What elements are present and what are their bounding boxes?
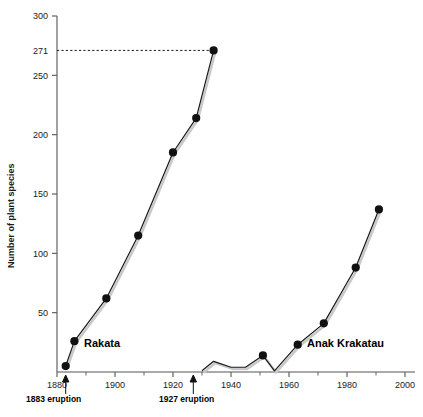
series-label-rakata: Rakata (84, 337, 121, 349)
x-tick-label-1920: 1920 (163, 380, 183, 390)
eruption-1927 (190, 375, 196, 394)
y-axis-ticks (52, 16, 57, 313)
x-tick-label-1940: 1940 (221, 380, 241, 390)
series-lines (66, 50, 379, 370)
series-markers (62, 46, 383, 370)
y-axis-title: Number of plant species (6, 163, 16, 268)
series-line-rakata (66, 50, 214, 366)
x-axis-tick-labels: 1880190019201940196019802000 (47, 380, 415, 390)
data-point-rakata-1886 (70, 337, 78, 345)
x-tick-label-1980: 1980 (337, 380, 357, 390)
y-tick-label-50: 50 (38, 308, 48, 318)
data-point-anak-krakatau-1983 (352, 263, 360, 271)
y-tick-label-300: 300 (33, 11, 48, 21)
data-point-rakata-1928 (192, 114, 200, 122)
x-tick-label-1960: 1960 (279, 380, 299, 390)
data-point-anak-krakatau-1972 (320, 319, 328, 327)
data-point-rakata-1908 (134, 231, 142, 239)
x-tick-label-2000: 2000 (395, 380, 415, 390)
y-tick-label-250: 250 (33, 71, 48, 81)
x-axis-ticks (57, 372, 405, 377)
plant-species-line-chart: 50100150200250271300 1880190019201940196… (0, 0, 423, 417)
data-point-anak-krakatau-1963 (294, 341, 302, 349)
y-tick-label-100: 100 (33, 249, 48, 259)
data-point-anak-krakatau-1991 (375, 205, 383, 213)
y-tick-label-150: 150 (33, 189, 48, 199)
series-shadow-paths (67, 52, 380, 372)
axes-group (57, 16, 415, 372)
y-axis-tick-labels: 50100150200250271300 (33, 11, 48, 318)
series-label-anak-krakatau: Anak Krakatau (307, 337, 384, 349)
annotation-label-1927: 1927 eruption (159, 394, 214, 404)
data-point-rakata-1883 (62, 362, 70, 370)
annotation-label-1883: 1883 eruption (26, 394, 81, 404)
chart-container: 50100150200250271300 1880190019201940196… (0, 0, 423, 417)
data-point-rakata-1920 (169, 148, 177, 156)
y-tick-label-200: 200 (33, 130, 48, 140)
data-point-anak-krakatau-1951 (259, 351, 267, 359)
data-point-rakata-1934 (210, 46, 218, 54)
x-tick-label-1900: 1900 (105, 380, 125, 390)
y-tick-label-271: 271 (33, 46, 48, 56)
data-point-rakata-1897 (102, 294, 110, 302)
